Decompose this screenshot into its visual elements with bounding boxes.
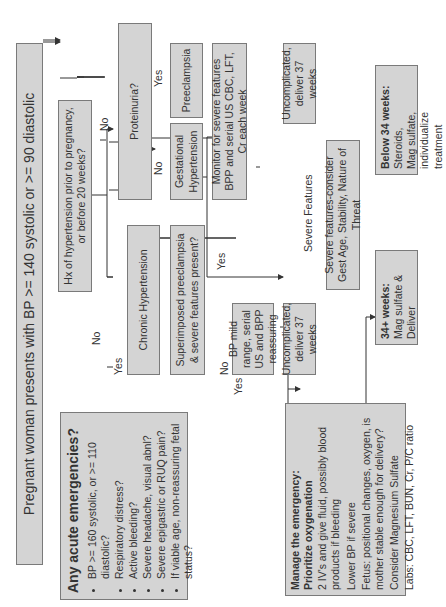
hx-hypertension-box: Hx of hypertension prior to pregnancy, o… (58, 100, 92, 292)
label-no-emergency: No (90, 332, 102, 345)
monitor-box: Monitor for severe features BPP and seri… (212, 43, 247, 200)
emergency-item: Respiratory distress? (113, 419, 126, 579)
label-no-hx: No (98, 118, 110, 131)
label-no-superimposed: No (218, 362, 230, 375)
emergency-item: Severe epigastric or RUQ pain? (155, 419, 168, 579)
superimposed-preeclampsia-box: Superimposed preeclampsia & severe featu… (170, 225, 205, 375)
label-yes-emergency: Yes (232, 378, 244, 395)
manage-emergency-box: Manage the emergency: Prioritize oxygena… (285, 403, 406, 596)
acute-emergencies-heading: Any acute emergencies? (65, 428, 83, 593)
flowchart: Pregnant woman presents with BP >= 140 s… (0, 0, 446, 607)
label-no-proteinuria: No (152, 162, 164, 175)
emergency-item: Active bleeding? (127, 419, 140, 579)
below-34-weeks-box: Below 34 weeks: Steroids, Mag sulfate, i… (375, 65, 418, 175)
chronic-hypertension-box: Chronic Hypertension (127, 225, 160, 375)
label-yes-hx: Yes (112, 358, 124, 375)
label-yes-proteinuria: Yes (152, 70, 164, 87)
emergency-item: Severe headache, visual abnl? (141, 419, 154, 579)
bp-mild-range-box: BP mild range, serial US and BPP reassur… (232, 303, 274, 375)
start-text: Pregnant woman presents with BP >= 140 s… (21, 93, 39, 515)
severe-features-box: Severe features-consider Gest Age, Stabi… (326, 140, 360, 290)
uncomplicated-box-1: Uncomplicated, deliver 37 weeks (283, 303, 316, 375)
proteinuria-box: Proteinuria? (118, 23, 152, 200)
label-yes-superimposed: Yes (215, 253, 227, 270)
emergency-item: If viable age, non-reassuring fetal stat… (169, 419, 195, 579)
gestational-hypertension-box: Gestational Hypertension (170, 123, 203, 200)
emergency-item: BP >= 160 systolic, or >= 110 diastolic? (86, 419, 112, 579)
uncomplicated-box-2: Uncomplicated, deliver 37 weeks (283, 43, 316, 124)
34-plus-weeks-box: 34+ weeks: Mag sulfate & Deliver (375, 250, 418, 345)
preeclampsia-box: Preeclampsia (170, 43, 203, 118)
acute-emergencies-box: Any acute emergencies? BP >= 160 systoli… (60, 412, 188, 600)
label-severe-features: Severe Features (302, 174, 314, 252)
start-box: Pregnant woman presents with BP >= 140 s… (16, 43, 43, 565)
acute-emergencies-list: BP >= 160 systolic, or >= 110 diastolic?… (85, 419, 197, 593)
